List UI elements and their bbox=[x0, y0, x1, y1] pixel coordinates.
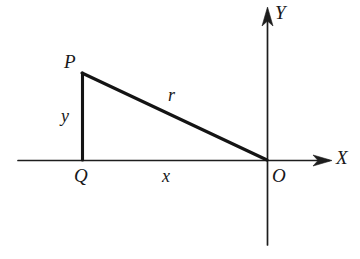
y-axis-label: Y bbox=[275, 3, 286, 22]
vertex-label-p: P bbox=[64, 52, 76, 71]
side-label-x: x bbox=[162, 167, 170, 185]
side-label-r: r bbox=[168, 86, 175, 104]
vertex-label-q: Q bbox=[74, 166, 88, 185]
geometry-diagram bbox=[0, 0, 360, 259]
x-axis-label: X bbox=[336, 148, 348, 167]
figure-canvas: P Q O y x r X Y bbox=[0, 0, 360, 259]
side-label-y: y bbox=[61, 107, 69, 125]
origin-label-o: O bbox=[272, 166, 286, 185]
